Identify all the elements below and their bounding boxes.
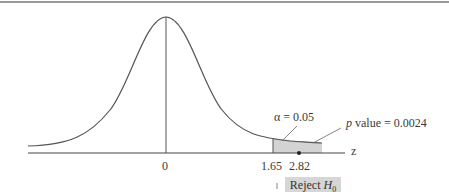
normal-curve <box>28 17 322 146</box>
test-statistic-point <box>297 151 301 155</box>
reject-h0-label: Reject H0 <box>285 177 341 192</box>
reject-text: Reject <box>290 178 321 192</box>
h-subscript: 0 <box>332 185 336 192</box>
tick-0: 0 <box>162 159 168 174</box>
axis-label-z: z <box>351 144 356 159</box>
pvalue-text: value = 0.0024 <box>352 116 427 130</box>
normal-curve-plot <box>0 0 449 192</box>
h-symbol: H <box>323 178 332 192</box>
tick-critical: 1.65 <box>261 159 282 174</box>
alpha-leader <box>282 126 297 141</box>
pvalue-leader <box>313 128 341 143</box>
alpha-label: α = 0.05 <box>274 110 314 125</box>
tick-test-stat: 2.82 <box>289 159 310 174</box>
pvalue-label: p value = 0.0024 <box>346 116 427 131</box>
